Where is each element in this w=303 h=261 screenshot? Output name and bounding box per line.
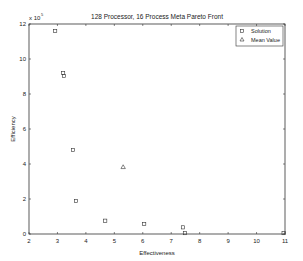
y-tick-label: 2: [23, 196, 27, 202]
x-tick-label: 11: [282, 238, 289, 244]
x-tick-label: 10: [253, 238, 260, 244]
legend: Solution Mean Value: [236, 26, 283, 46]
y-axis-label: Efficiency: [10, 116, 16, 142]
x-tick-label: 6: [141, 238, 145, 244]
x-tick-label: 5: [113, 238, 117, 244]
y-tick-label: 8: [23, 91, 27, 97]
legend-label-solution: Solution: [251, 28, 271, 34]
x-tick-label: 3: [56, 238, 60, 244]
x-tick-label: 4: [84, 238, 88, 244]
x-tick-label: 9: [226, 238, 230, 244]
y-tick-label: 10: [19, 56, 26, 62]
plot-area: [29, 24, 285, 234]
x-axis-label: Effectiveness: [139, 250, 175, 256]
y-tick-label: 0: [23, 231, 27, 237]
y-tick-label: 12: [19, 21, 26, 27]
chart-title: 128 Processor, 16 Process Meta Pareto Fr…: [91, 13, 223, 20]
x-tick-label: 7: [170, 238, 174, 244]
y-multiplier-exponent: 5: [41, 12, 44, 17]
legend-label-mean-value: Mean Value: [251, 37, 280, 43]
x-tick-label: 2: [27, 238, 31, 244]
y-tick-label: 4: [23, 161, 27, 167]
x-tick-label: 8: [198, 238, 202, 244]
y-tick-label: 6: [23, 126, 27, 132]
y-multiplier: x 10 5: [29, 12, 44, 21]
pareto-front-chart: 128 Processor, 16 Process Meta Pareto Fr…: [0, 0, 303, 261]
y-multiplier-base: x 10: [29, 15, 41, 21]
